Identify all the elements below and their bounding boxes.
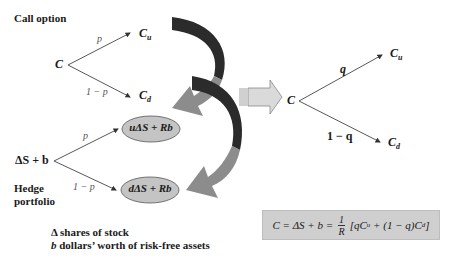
pricing-formula-box: C = ΔS + b = 1 R [qCu + (1 − q)Cd ]	[262, 210, 440, 240]
call-up-node: Cu	[139, 26, 151, 42]
block-arrow-icon	[240, 80, 282, 114]
risk-neutral-root-node: C	[287, 93, 295, 108]
legend-b-line: b dollars’ worth of risk-free assets	[51, 239, 210, 251]
curved-arrow-bottom-icon	[186, 76, 242, 198]
call-root-node: C	[55, 57, 63, 72]
curved-arrow-top-icon	[172, 17, 225, 116]
legend-delta-line: Δ shares of stock	[51, 226, 129, 238]
hedge-down-node: dΔS + Rb	[121, 182, 179, 194]
risk-neutral-up-node: Cu	[390, 46, 402, 62]
hedge-portfolio-title: Hedge portfolio	[14, 182, 55, 208]
call-up-probability: p	[97, 33, 102, 44]
formula-fraction: 1 R	[338, 214, 345, 237]
call-option-title: Call option	[14, 12, 66, 24]
call-down-probability: 1 − p	[86, 86, 108, 97]
hedge-up-node: uΔS + Rb	[122, 121, 180, 133]
hedge-down-probability: 1 − p	[73, 181, 95, 192]
hedge-up-probability: p	[83, 130, 88, 141]
call-down-node: Cd	[139, 88, 151, 104]
hedge-root-node: ΔS + b	[15, 153, 49, 168]
risk-neutral-down-probability: 1 − q	[327, 129, 353, 144]
risk-neutral-up-probability: q	[340, 62, 346, 77]
risk-neutral-down-node: Cd	[388, 135, 400, 151]
